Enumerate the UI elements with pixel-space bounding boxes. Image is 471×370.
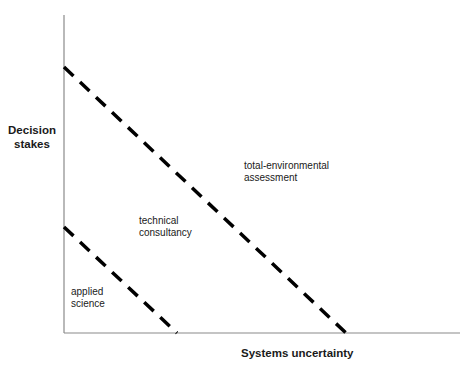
upper-boundary-dashed-line	[64, 67, 346, 333]
diagram-canvas	[0, 0, 471, 370]
y-axis-label: Decision stakes	[4, 123, 60, 151]
region-technical-consultancy: technical consultancy	[139, 215, 192, 239]
lower-boundary-dashed-line	[64, 227, 177, 333]
region-applied-science: applied science	[71, 286, 105, 310]
x-axis-label: Systems uncertainty	[241, 346, 381, 360]
region-total-environmental-assessment: total-environmental assessment	[244, 160, 329, 184]
